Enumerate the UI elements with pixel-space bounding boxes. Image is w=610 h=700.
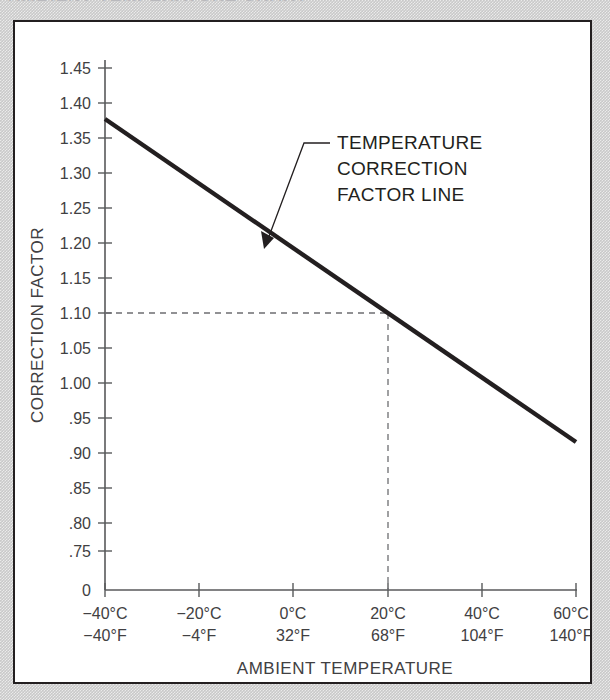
svg-text:1.00: 1.00 xyxy=(60,375,91,392)
annotation-line-3: FACTOR LINE xyxy=(337,184,465,205)
svg-text:1.20: 1.20 xyxy=(60,235,91,252)
svg-text:1.15: 1.15 xyxy=(60,270,91,287)
annotation-line-2: CORRECTION xyxy=(337,158,468,179)
x-tick--20: −20°C −4°F xyxy=(176,583,221,644)
x-tick-60: 60°C 140°F xyxy=(550,583,590,644)
y-tick-1.40: 1.40 xyxy=(60,95,112,112)
svg-text:.85: .85 xyxy=(69,480,91,497)
svg-text:0: 0 xyxy=(82,582,91,599)
svg-text:.80: .80 xyxy=(69,515,91,532)
svg-text:−20°C: −20°C xyxy=(176,605,221,622)
svg-text:1.35: 1.35 xyxy=(60,130,91,147)
svg-text:1.40: 1.40 xyxy=(60,95,91,112)
svg-text:.75: .75 xyxy=(69,543,91,560)
svg-text:−40°F: −40°F xyxy=(83,627,127,644)
annotation-line-1: TEMPERATURE xyxy=(337,132,482,153)
y-tick-1.35: 1.35 xyxy=(60,130,112,147)
x-tick-0: 0°C 32°F xyxy=(276,583,310,644)
y-tick-zero: 0 xyxy=(82,582,91,599)
svg-text:68°F: 68°F xyxy=(371,627,405,644)
svg-text:−4°F: −4°F xyxy=(182,627,217,644)
svg-text:1.10: 1.10 xyxy=(60,305,91,322)
svg-text:32°F: 32°F xyxy=(276,627,310,644)
y-tick-1.15: 1.15 xyxy=(60,270,112,287)
x-axis-title: AMBIENT TEMPERATURE xyxy=(237,659,453,678)
svg-text:1.05: 1.05 xyxy=(60,340,91,357)
annotation-callout: TEMPERATURE CORRECTION FACTOR LINE xyxy=(337,132,482,205)
y-tick-1.05: 1.05 xyxy=(60,340,112,357)
svg-text:.95: .95 xyxy=(69,410,91,427)
cropped-heading-text: AMBIENT TEMPERATURE CHART xyxy=(8,0,308,5)
svg-text:140°F: 140°F xyxy=(550,627,590,644)
svg-text:1.30: 1.30 xyxy=(60,165,91,182)
chart-plate: 1.45 1.40 1.35 1.30 1.25 1.20 1.15 1.10 … xyxy=(13,20,592,684)
y-axis-title: CORRECTION FACTOR xyxy=(28,227,47,423)
y-tick-1.10: 1.10 xyxy=(60,305,112,322)
svg-text:0°C: 0°C xyxy=(280,605,307,622)
svg-text:40°C: 40°C xyxy=(464,605,500,622)
x-tick-20: 20°C 68°F xyxy=(370,583,406,644)
y-axis-ticks: 1.45 1.40 1.35 1.30 1.25 1.20 1.15 1.10 … xyxy=(60,60,112,599)
y-tick-1.00: 1.00 xyxy=(60,375,112,392)
reference-line-20c-1.10 xyxy=(105,313,388,590)
svg-text:−40°C: −40°C xyxy=(82,605,127,622)
cropped-heading: AMBIENT TEMPERATURE CHART xyxy=(0,0,610,9)
svg-text:1.45: 1.45 xyxy=(60,60,91,77)
figure-root: AMBIENT TEMPERATURE CHART 1.45 1.40 1.35… xyxy=(0,0,610,700)
y-tick-1.45: 1.45 xyxy=(60,60,112,77)
x-tick-40: 40°C 104°F xyxy=(461,583,504,644)
svg-text:104°F: 104°F xyxy=(461,627,504,644)
svg-text:1.25: 1.25 xyxy=(60,200,91,217)
svg-text:20°C: 20°C xyxy=(370,605,406,622)
svg-text:60°C: 60°C xyxy=(553,605,589,622)
y-tick-1.30: 1.30 xyxy=(60,165,112,182)
svg-text:.90: .90 xyxy=(69,445,91,462)
y-tick-1.25: 1.25 xyxy=(60,200,112,217)
x-axis-ticks: −40°C −40°F −20°C −4°F 0°C 32°F 20°C 68°… xyxy=(82,583,590,644)
y-tick-1.20: 1.20 xyxy=(60,235,112,252)
temperature-correction-factor-chart: 1.45 1.40 1.35 1.30 1.25 1.20 1.15 1.10 … xyxy=(15,22,590,682)
